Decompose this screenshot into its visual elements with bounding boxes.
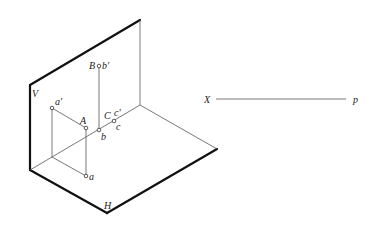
- label-axis-x: X: [203, 94, 211, 105]
- label-b-prime: b': [102, 60, 110, 71]
- label-b: b: [101, 131, 106, 142]
- label-C: C: [104, 110, 111, 121]
- h-plane-back-edge: [140, 105, 217, 149]
- ax-to-a-line: [52, 157, 86, 176]
- point-a: [84, 174, 88, 178]
- label-axis-p: p: [352, 94, 358, 105]
- label-A: A: [79, 115, 87, 126]
- label-c-prime: c': [114, 107, 121, 118]
- label-a-prime: a': [55, 96, 63, 107]
- label-h-plane: H: [103, 200, 112, 211]
- projection-diagram: V H a' A a B b' b C c' c X p: [0, 0, 390, 242]
- label-c: c: [116, 121, 121, 132]
- h-plane-right-front-edge: [107, 149, 217, 213]
- point-a-prime: [50, 106, 54, 110]
- label-v-plane: V: [32, 88, 40, 99]
- h-plane-front-edge: [30, 170, 107, 213]
- point-A: [84, 126, 88, 130]
- point-b-prime: [97, 64, 101, 68]
- label-B: B: [89, 60, 95, 71]
- label-a: a: [89, 171, 94, 182]
- v-plane-top-edge: [30, 20, 140, 85]
